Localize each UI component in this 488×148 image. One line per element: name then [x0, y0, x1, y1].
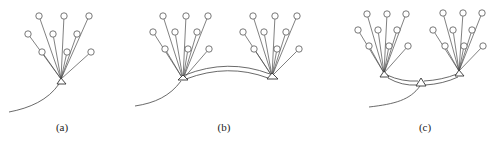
leaf-circle-node [450, 27, 456, 33]
edge-line [61, 19, 88, 79]
leaf-circle-node [384, 11, 390, 17]
connector-arc [388, 78, 417, 85]
panel-label-a: (a) [56, 121, 69, 134]
leaf-circle-node [250, 13, 256, 19]
leaf-circle-node [480, 43, 486, 49]
edge-line [435, 33, 459, 71]
leaf-circle-node [283, 29, 289, 35]
leaf-circle-node [294, 13, 300, 19]
leaf-circle-node [36, 13, 42, 19]
connector-arc [425, 77, 458, 85]
triangle-node-icon [178, 75, 188, 80]
leaf-circle-node [355, 27, 361, 33]
connector-arc [424, 74, 457, 81]
leaf-circle-node [261, 29, 267, 35]
leaf-circle-node [440, 10, 446, 16]
leaf-circle-node [460, 10, 466, 16]
leaf-circle-node [430, 27, 436, 33]
leaf-circle-node [364, 11, 370, 17]
leaf-circle-node [61, 13, 67, 19]
root-edge-curve [135, 81, 181, 106]
leaf-circle-node [74, 31, 80, 37]
leaf-circle-node [375, 27, 381, 33]
edge-line [44, 55, 61, 79]
leaf-circle-node [39, 49, 45, 55]
root-edge-curve [369, 86, 420, 107]
leaf-circle-node [403, 11, 409, 17]
leaf-circle-node [442, 43, 448, 49]
leaf-circle-node [274, 46, 280, 52]
leaf-circle-node [194, 29, 200, 35]
leaf-circle-node [50, 31, 56, 37]
panel-label-c: (c) [419, 121, 432, 134]
panel-label-b: (b) [218, 121, 231, 134]
leaf-circle-node [206, 46, 212, 52]
panel-a [9, 13, 94, 112]
leaf-circle-node [64, 49, 70, 55]
leaf-circle-node [88, 49, 94, 55]
leaf-circle-node [185, 46, 191, 52]
leaf-circle-node [251, 46, 257, 52]
edge-line [54, 37, 61, 79]
edge-line [453, 33, 459, 71]
tree-diagram: (a) (b) (c) [0, 0, 488, 148]
leaf-circle-node [479, 10, 485, 16]
leaf-circle-node [162, 46, 168, 52]
leaf-circle-node [386, 43, 392, 49]
leaf-circle-node [405, 43, 411, 49]
triangle-node-icon [455, 70, 464, 76]
leaf-circle-node [25, 31, 31, 37]
leaf-circle-node [150, 29, 156, 35]
leaf-circle-node [272, 13, 278, 19]
panel-b [135, 13, 302, 106]
triangle-node-icon [57, 78, 66, 84]
leaf-circle-node [394, 27, 400, 33]
leaf-circle-node [160, 13, 166, 19]
edge-line [459, 33, 471, 71]
leaf-circle-node [366, 43, 372, 49]
connector-arc [186, 71, 268, 79]
edge-line [61, 19, 64, 79]
leaf-circle-node [205, 13, 211, 19]
leaf-circle-node [172, 29, 178, 35]
edge-line [378, 33, 384, 73]
leaf-circle-node [469, 27, 475, 33]
leaf-circle-node [86, 13, 92, 19]
leaf-circle-node [461, 43, 467, 49]
root-edge-curve [9, 84, 59, 112]
panel-c [355, 10, 486, 107]
triangle-node-icon [416, 78, 426, 86]
triangle-node-icon [380, 71, 389, 77]
leaf-circle-node [183, 13, 189, 19]
edge-line [384, 48, 406, 73]
leaf-circle-node [296, 46, 302, 52]
leaf-circle-node [240, 29, 246, 35]
